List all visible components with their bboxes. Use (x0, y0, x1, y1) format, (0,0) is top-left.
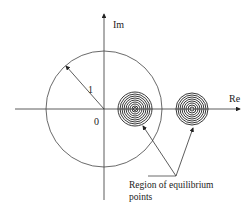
origin-label: 0 (94, 117, 99, 127)
real-axis-label: Re (229, 94, 240, 104)
complex-plane-diagram (0, 0, 252, 216)
radius-arrow (66, 66, 104, 109)
annotation-arrow-2 (176, 128, 193, 176)
annotation-text: Region of equilibrium points (129, 181, 213, 202)
radius-label: 1 (88, 85, 93, 95)
annotation-line-2: points (129, 193, 213, 203)
imaginary-axis-label: Im (113, 20, 124, 30)
annotation-line-1: Region of equilibrium (129, 181, 213, 191)
annotation-arrow-1 (143, 126, 176, 176)
